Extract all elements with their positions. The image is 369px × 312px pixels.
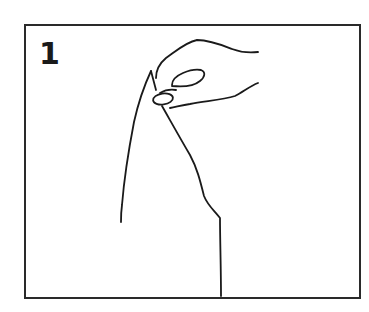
thumb-outline [172, 70, 204, 87]
finger-crease [160, 90, 176, 93]
hand-pinching-fabric-illustration [0, 0, 369, 312]
hand-back-outline [156, 40, 258, 78]
fabric-left-edge [121, 71, 151, 222]
fingernail-icon [152, 92, 173, 106]
